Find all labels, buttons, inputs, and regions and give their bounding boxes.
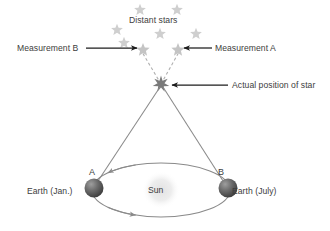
orbit-point-b-label: B <box>218 168 224 177</box>
sightline-earth-jan-to-star <box>96 87 160 184</box>
orbit-point-a-label: A <box>89 168 95 177</box>
dashed-to-measurement-a <box>161 52 179 84</box>
actual-star-shape <box>153 76 170 92</box>
actual-position-label: Actual position of star <box>232 81 315 90</box>
callout-arrows <box>86 48 228 85</box>
sun-label: Sun <box>148 186 163 195</box>
distant-star-2 <box>134 4 146 15</box>
diagram-canvas <box>0 0 330 231</box>
distant-stars-label: Distant stars <box>129 16 177 25</box>
distant-star-5 <box>154 28 166 39</box>
distant-star-3 <box>171 4 183 15</box>
distant-star-field <box>111 4 202 48</box>
earth-january-label: Earth (Jan.) <box>27 187 73 196</box>
distant-star-1 <box>111 24 123 35</box>
dashed-to-measurement-b <box>142 52 161 84</box>
sightline-earth-jul-to-star <box>163 87 225 184</box>
parallax-diagram: Distant stars Measurement B Measurement … <box>0 0 330 231</box>
distant-star-6 <box>190 28 202 39</box>
actual-star-icon <box>153 76 170 92</box>
orbit-direction-arrow-top <box>108 165 136 173</box>
earth-january <box>85 179 104 198</box>
measurement-a-label: Measurement A <box>215 44 276 53</box>
measurement-b-label: Measurement B <box>17 44 78 53</box>
orbit-direction-arrow-bottom <box>108 207 136 215</box>
distant-star-4 <box>118 37 130 48</box>
earth-july-label: Earth (July) <box>232 187 277 196</box>
